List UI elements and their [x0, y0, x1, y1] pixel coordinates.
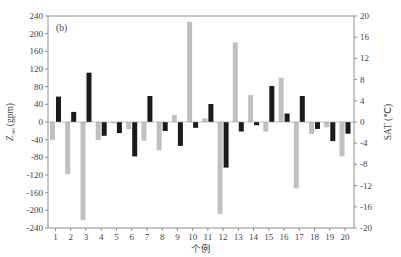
x-tick-label: 1: [53, 232, 58, 242]
x-tick-label: 4: [99, 232, 104, 242]
z500-bar: [309, 122, 314, 134]
x-tick-label: 12: [219, 232, 228, 242]
sat-bar: [147, 96, 152, 122]
right-tick-label: -16: [360, 202, 372, 212]
sat-bar: [117, 122, 122, 133]
sat-bar: [87, 73, 92, 122]
sat-bar: [224, 122, 229, 168]
sat-bar: [193, 122, 198, 128]
right-tick-label: 16: [360, 32, 370, 42]
sat-bar: [315, 122, 320, 129]
left-tick-label: 200: [30, 29, 44, 39]
z500-bar: [340, 122, 345, 156]
bars-group: [50, 22, 351, 220]
x-axis-ticks: 1234567891011121314151617181920: [53, 228, 350, 242]
left-tick-label: 40: [34, 99, 44, 109]
z500-bar: [279, 78, 284, 122]
sat-bar: [239, 122, 244, 132]
x-tick-label: 13: [234, 232, 244, 242]
right-tick-label: 20: [360, 11, 370, 21]
bar-chart: 24020016012080400-40-80-120-160-200-240 …: [0, 0, 401, 257]
sat-bar: [208, 104, 213, 122]
left-tick-label: 160: [30, 46, 44, 56]
sat-bar: [330, 122, 335, 141]
left-tick-label: -240: [27, 223, 44, 233]
z500-bar: [233, 43, 238, 123]
right-tick-label: 0: [360, 117, 365, 127]
left-tick-label: 80: [34, 82, 44, 92]
z500-bar: [294, 122, 299, 188]
x-tick-label: 16: [280, 232, 290, 242]
left-tick-label: 240: [30, 11, 44, 21]
sat-bar: [163, 122, 168, 131]
sat-bar: [254, 122, 259, 125]
z500-bar: [248, 95, 253, 122]
sat-bar: [300, 96, 305, 122]
z500-bar: [50, 122, 55, 140]
left-tick-label: -40: [31, 135, 43, 145]
x-tick-label: 3: [84, 232, 89, 242]
z500-bar: [172, 115, 177, 122]
sat-bar: [71, 112, 76, 122]
z500-bar: [202, 119, 207, 123]
sat-bar: [56, 97, 61, 122]
x-tick-label: 7: [145, 232, 150, 242]
right-tick-label: -4: [360, 138, 368, 148]
left-tick-label: 120: [30, 64, 44, 74]
x-tick-label: 8: [160, 232, 165, 242]
right-axis-ticks: 201612840-4-8-12-16-20: [354, 11, 372, 233]
x-tick-label: 11: [204, 232, 213, 242]
right-axis-title: SAT (℃): [383, 104, 394, 140]
left-axis-ticks: 24020016012080400-40-80-120-160-200-240: [27, 11, 49, 233]
x-tick-label: 14: [249, 232, 259, 242]
sat-bar: [132, 122, 137, 156]
panel-label: (b): [56, 23, 67, 34]
left-tick-label: -160: [27, 188, 44, 198]
sat-bar: [102, 122, 107, 136]
right-tick-label: -20: [360, 223, 372, 233]
x-tick-label: 9: [175, 232, 180, 242]
left-tick-label: 0: [39, 117, 44, 127]
x-tick-label: 17: [295, 232, 305, 242]
x-tick-label: 18: [310, 232, 320, 242]
x-tick-label: 2: [68, 232, 73, 242]
x-tick-label: 15: [264, 232, 274, 242]
right-tick-label: -12: [360, 181, 372, 191]
z500-bar: [187, 22, 192, 122]
sat-bar: [346, 122, 351, 134]
sat-bar: [285, 114, 290, 123]
right-tick-label: 4: [360, 96, 365, 106]
left-axis-title-sub: 500: [11, 128, 16, 136]
left-tick-label: -200: [27, 205, 44, 215]
right-tick-label: -8: [360, 159, 368, 169]
x-tick-label: 20: [341, 232, 351, 242]
left-axis-title: Z500(gpm): [5, 103, 16, 141]
z500-bar: [157, 122, 162, 150]
svg-text:Z500(gpm): Z500(gpm): [5, 103, 16, 141]
sat-bar: [269, 86, 274, 122]
x-axis-title: 个例: [191, 243, 211, 254]
z500-bar: [263, 122, 268, 132]
left-axis-title-unit: (gpm): [5, 103, 16, 126]
z500-bar: [96, 122, 101, 140]
right-tick-label: 8: [360, 75, 365, 85]
z500-bar: [218, 122, 223, 214]
right-tick-label: 12: [360, 53, 369, 63]
left-tick-label: -80: [31, 152, 43, 162]
z500-bar: [81, 122, 86, 220]
x-tick-label: 19: [325, 232, 335, 242]
x-tick-label: 5: [114, 232, 119, 242]
z500-bar: [324, 122, 329, 127]
x-tick-label: 6: [129, 232, 134, 242]
sat-bar: [178, 122, 183, 146]
z500-bar: [65, 122, 70, 174]
z500-bar: [141, 122, 146, 141]
left-tick-label: -120: [27, 170, 44, 180]
x-tick-label: 10: [188, 232, 198, 242]
z500-bar: [126, 122, 131, 129]
